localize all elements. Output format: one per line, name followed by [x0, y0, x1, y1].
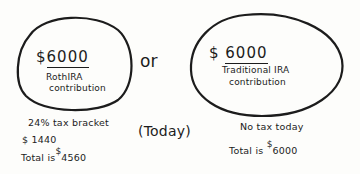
today-label: (Today): [138, 124, 191, 138]
roth-label-line2: contribution: [49, 84, 106, 93]
roth-total-value: 4560: [61, 152, 86, 163]
traditional-amount: $ 6000: [209, 46, 268, 61]
traditional-label-line2: contribution: [229, 78, 286, 87]
traditional-currency-symbol: $: [209, 44, 220, 62]
traditional-total-note: Total is $6000: [229, 143, 298, 156]
roth-total-currency: $: [55, 146, 61, 156]
traditional-label-line1: Traditional IRA: [222, 66, 289, 75]
traditional-no-tax-note: No tax today: [240, 122, 304, 132]
roth-tax-bracket-note: 24% tax bracket: [28, 118, 109, 128]
traditional-amount-value: 6000: [225, 44, 267, 64]
roth-amount-value: 6000: [47, 48, 89, 68]
roth-label-line1: RothIRA: [46, 73, 83, 82]
traditional-total-currency: $: [267, 139, 273, 149]
roth-currency-symbol: $: [36, 48, 47, 66]
roth-total-prefix: Total is: [21, 152, 55, 163]
roth-total-note: Total is$4560: [21, 150, 86, 163]
roth-tax-amount-note: $ 1440: [22, 135, 56, 145]
traditional-total-prefix: Total is: [229, 145, 263, 156]
roth-amount: $6000: [36, 50, 89, 65]
traditional-total-value: 6000: [273, 145, 298, 156]
diagram-canvas: $6000 RothIRA contribution or $ 6000 Tra…: [0, 0, 360, 174]
or-connector: or: [140, 53, 158, 70]
